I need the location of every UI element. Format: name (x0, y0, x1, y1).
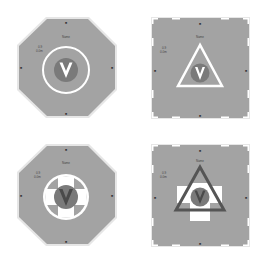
helipad-square-triangle-cross: ■ ■ ■ ■ Name 0.9 0.0m (132, 129, 263, 258)
helipad-octagon-cross: ■ ■ ■ ■ Name 0.9 0.0m (0, 129, 132, 258)
v-badge (54, 58, 78, 82)
edge-mark-w: ■ (20, 66, 22, 70)
helipad-octagon-circle: ■ ■ ■ ■ Name 0.9 0.0m (0, 0, 132, 129)
edge-mark-w: ■ (154, 69, 156, 73)
info-line-2: 0.0m (34, 175, 41, 179)
edge-mark-e: ■ (245, 69, 247, 73)
edge-mark-n: ■ (199, 149, 201, 153)
name-label: Name (196, 35, 204, 39)
edge-mark-n: ■ (65, 148, 67, 152)
name-label: Name (196, 159, 204, 163)
edge-mark-s: ■ (65, 240, 67, 244)
name-label: Name (62, 161, 70, 165)
edge-mark-e: ■ (245, 196, 247, 200)
info-line-2: 0.0m (36, 49, 43, 53)
info-line-2: 0.0m (160, 175, 167, 179)
edge-mark-s: ■ (65, 112, 67, 116)
edge-mark-n: ■ (65, 21, 67, 25)
edge-mark-e: ■ (111, 194, 113, 198)
edge-mark-s: ■ (199, 242, 201, 246)
edge-mark-s: ■ (199, 114, 201, 118)
edge-mark-w: ■ (154, 196, 156, 200)
edge-mark-w: ■ (20, 194, 22, 198)
info-line-2: 0.0m (160, 50, 167, 54)
helipad-square-triangle: ■ ■ ■ ■ Name 0.9 0.0m (132, 0, 263, 129)
edge-mark-e: ■ (111, 66, 113, 70)
edge-mark-n: ■ (199, 22, 201, 26)
name-label: Name (62, 35, 70, 39)
